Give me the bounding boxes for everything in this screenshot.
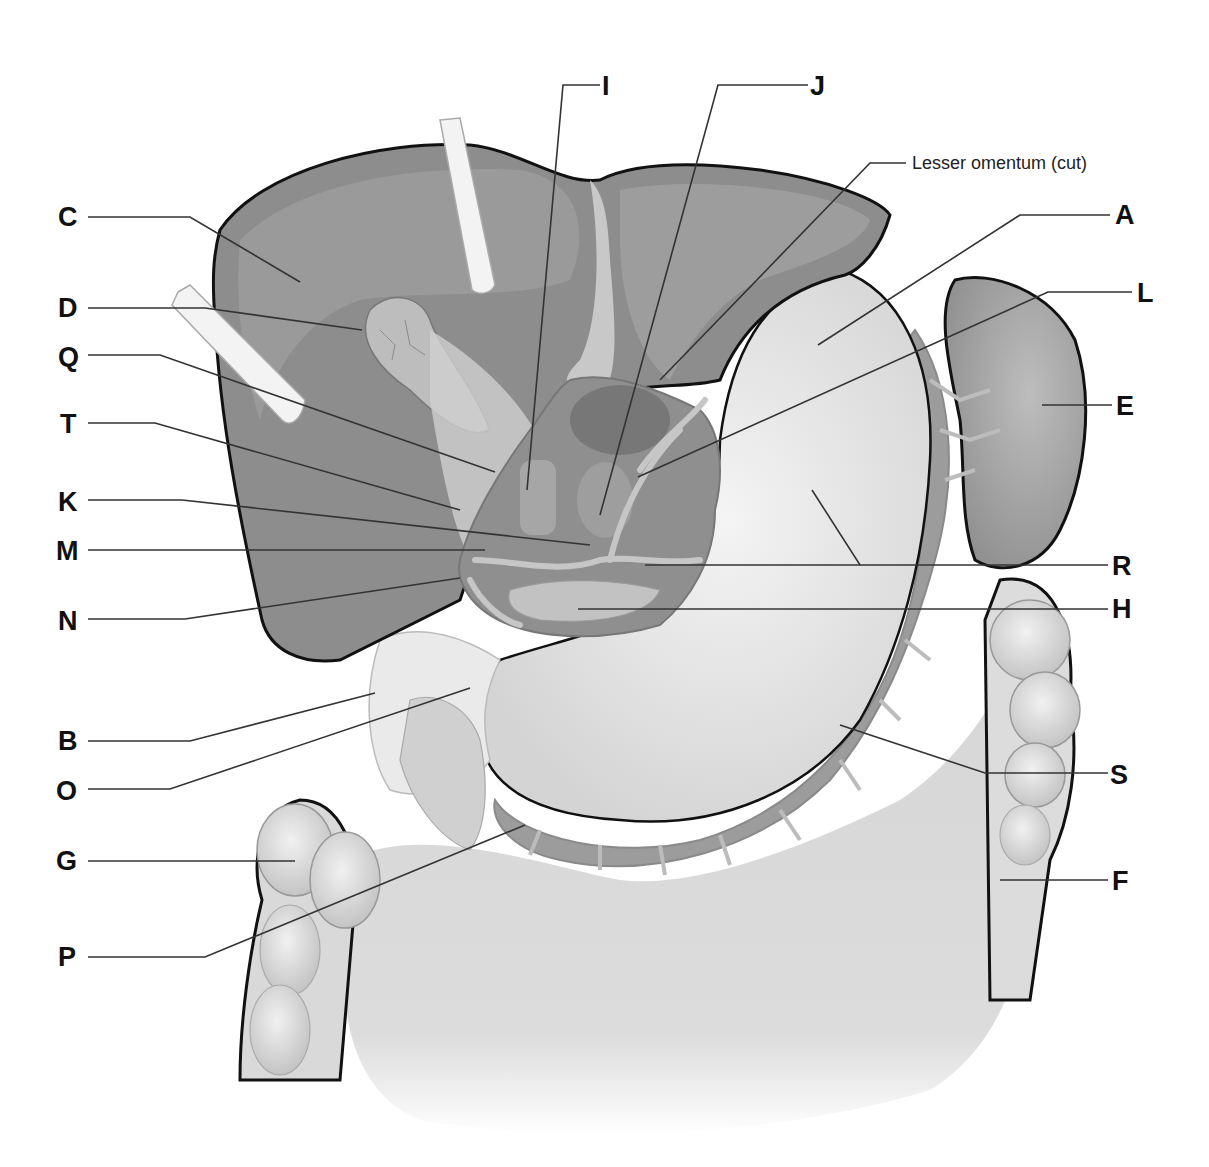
label-T: T <box>60 411 77 438</box>
label-E: E <box>1116 393 1134 420</box>
illustration <box>0 0 1209 1167</box>
label-A: A <box>1115 202 1135 229</box>
label-N: N <box>58 608 78 635</box>
label-R: R <box>1112 553 1132 580</box>
label-B: B <box>58 728 78 755</box>
label-S: S <box>1110 762 1128 789</box>
label-G: G <box>56 848 77 875</box>
label-F: F <box>1112 868 1129 895</box>
label-L: L <box>1137 280 1154 307</box>
label-K: K <box>58 489 78 516</box>
label-Q: Q <box>58 344 79 371</box>
ivc <box>520 460 556 535</box>
descending-colon <box>985 579 1080 1000</box>
label-P: P <box>58 944 76 971</box>
label-O: O <box>56 778 77 805</box>
anatomy-diagram: C D Q T K M N B O G P I J Lesser omentum… <box>0 0 1209 1167</box>
label-C: C <box>58 204 78 231</box>
label-H: H <box>1112 596 1132 623</box>
label-I: I <box>602 73 610 100</box>
aorta-region <box>577 462 633 538</box>
label-lesser-omentum: Lesser omentum (cut) <box>912 154 1087 172</box>
label-J: J <box>810 73 825 100</box>
label-D: D <box>58 295 78 322</box>
label-M: M <box>56 538 79 565</box>
spleen <box>945 278 1085 568</box>
